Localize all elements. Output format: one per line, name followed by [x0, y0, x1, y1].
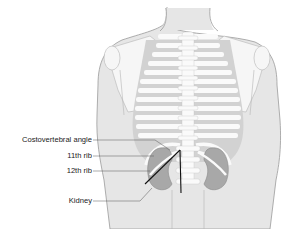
label-12th-rib: 12th rib — [67, 166, 92, 175]
label-11th-rib: 11th rib — [67, 151, 92, 160]
right-kidney — [204, 148, 228, 190]
label-kidney: Kidney — [69, 196, 92, 205]
torso-illustration — [0, 0, 290, 229]
label-costovertebral-angle: Costovertebral angle — [22, 135, 92, 144]
anatomy-diagram: Costovertebral angle 11th rib 12th rib K… — [0, 0, 290, 229]
neck — [160, 8, 214, 30]
left-kidney — [148, 148, 172, 190]
